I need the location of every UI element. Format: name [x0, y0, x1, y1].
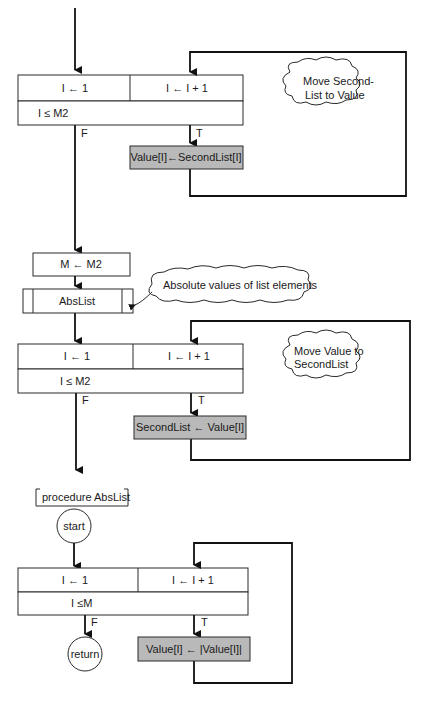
assign-and-call: M ← M2 AbsList Absolute values of list e… [23, 253, 318, 341]
loop2-comment-line1: Move Value to [294, 345, 364, 357]
loop3-false-label: F [91, 616, 98, 628]
call-comment-pointer [135, 292, 152, 305]
loop1: I ← 1 I ← I + 1 I ≤ M2 T Value[I]←Second… [18, 8, 406, 250]
loop2: I ← 1 I ← I + 1 I ≤ M2 T SecondList ← Va… [18, 321, 410, 470]
loop3-condition: I ≤M [71, 597, 92, 609]
loop1-increment: I ← I + 1 [166, 82, 208, 94]
loop3-increment: I ← I + 1 [172, 574, 214, 586]
loop2-condition-box [18, 369, 243, 393]
procedure-header: procedure AbsList [42, 491, 130, 503]
loop2-init: I ← 1 [64, 350, 90, 362]
assign-text: M ← M2 [60, 258, 102, 270]
call-label: AbsList [59, 295, 95, 307]
loop2-true-label: T [198, 394, 205, 406]
loop3-init: I ← 1 [62, 574, 88, 586]
start-label: start [63, 520, 84, 532]
loop2-condition: I ≤ M2 [60, 375, 91, 387]
call-comment: Absolute values of list elements [163, 279, 318, 291]
flowchart: I ← 1 I ← I + 1 I ≤ M2 T Value[I]←Second… [0, 0, 427, 717]
loop2-body: SecondList ← Value[I] [136, 421, 244, 433]
loop1-condition: I ≤ M2 [38, 107, 69, 119]
loop1-true-label: T [196, 127, 203, 139]
procedure-abslist: procedure AbsList start I ← 1 I ← I + 1 … [18, 489, 292, 683]
loop3-true-label: T [201, 616, 208, 628]
loop2-false-label: F [82, 394, 89, 406]
return-label: return [71, 648, 100, 660]
loop1-body: Value[I]←SecondList[I] [130, 151, 241, 163]
loop1-comment-line2: List to Value [305, 89, 365, 101]
loop3-body: Value[I] ← |Value[I]| [146, 643, 242, 655]
loop3-condition-box [18, 592, 248, 615]
loop2-increment: I ← I + 1 [168, 350, 210, 362]
loop1-init: I ← 1 [62, 82, 88, 94]
loop2-comment-line2: SecondList [294, 358, 348, 370]
loop1-false-label: F [81, 127, 88, 139]
loop1-comment-line1: Move Second- [303, 75, 374, 87]
